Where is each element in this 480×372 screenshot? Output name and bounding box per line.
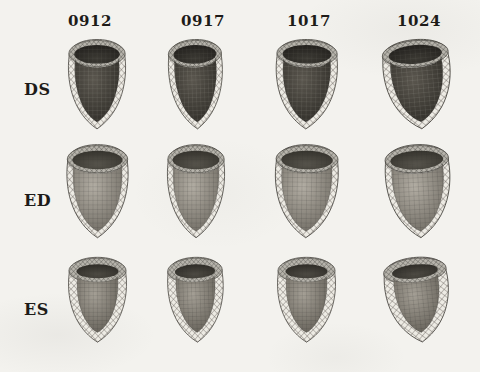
column-label-2: 0917: [181, 12, 225, 30]
row-label-ds: DS: [24, 80, 51, 99]
heart-mesh-DS-1017: [268, 35, 345, 134]
heart-mesh-ED-0917: [161, 141, 231, 243]
heart-mesh-ES-1024: [374, 250, 461, 351]
row-label-ed: ED: [24, 191, 51, 210]
heart-mesh-ES-0917: [160, 253, 231, 348]
heart-mesh-ES-0912: [62, 254, 133, 347]
heart-mesh-ED-1017: [267, 140, 346, 243]
column-label-1: 0912: [68, 12, 112, 30]
heart-mesh-ED-0912: [60, 141, 135, 243]
column-label-4: 1024: [397, 12, 441, 30]
heart-mesh-DS-1024: [373, 33, 463, 138]
heart-mesh-DS-0917: [161, 35, 230, 135]
column-label-3: 1017: [287, 12, 331, 30]
heart-mesh-ED-1024: [376, 139, 460, 245]
heart-mesh-DS-0912: [62, 36, 132, 134]
heart-mesh-ES-1017: [271, 254, 342, 347]
row-label-es: ES: [24, 300, 49, 319]
figure-page: 0912 0917 1017 1024 DS ED ES: [0, 0, 480, 372]
